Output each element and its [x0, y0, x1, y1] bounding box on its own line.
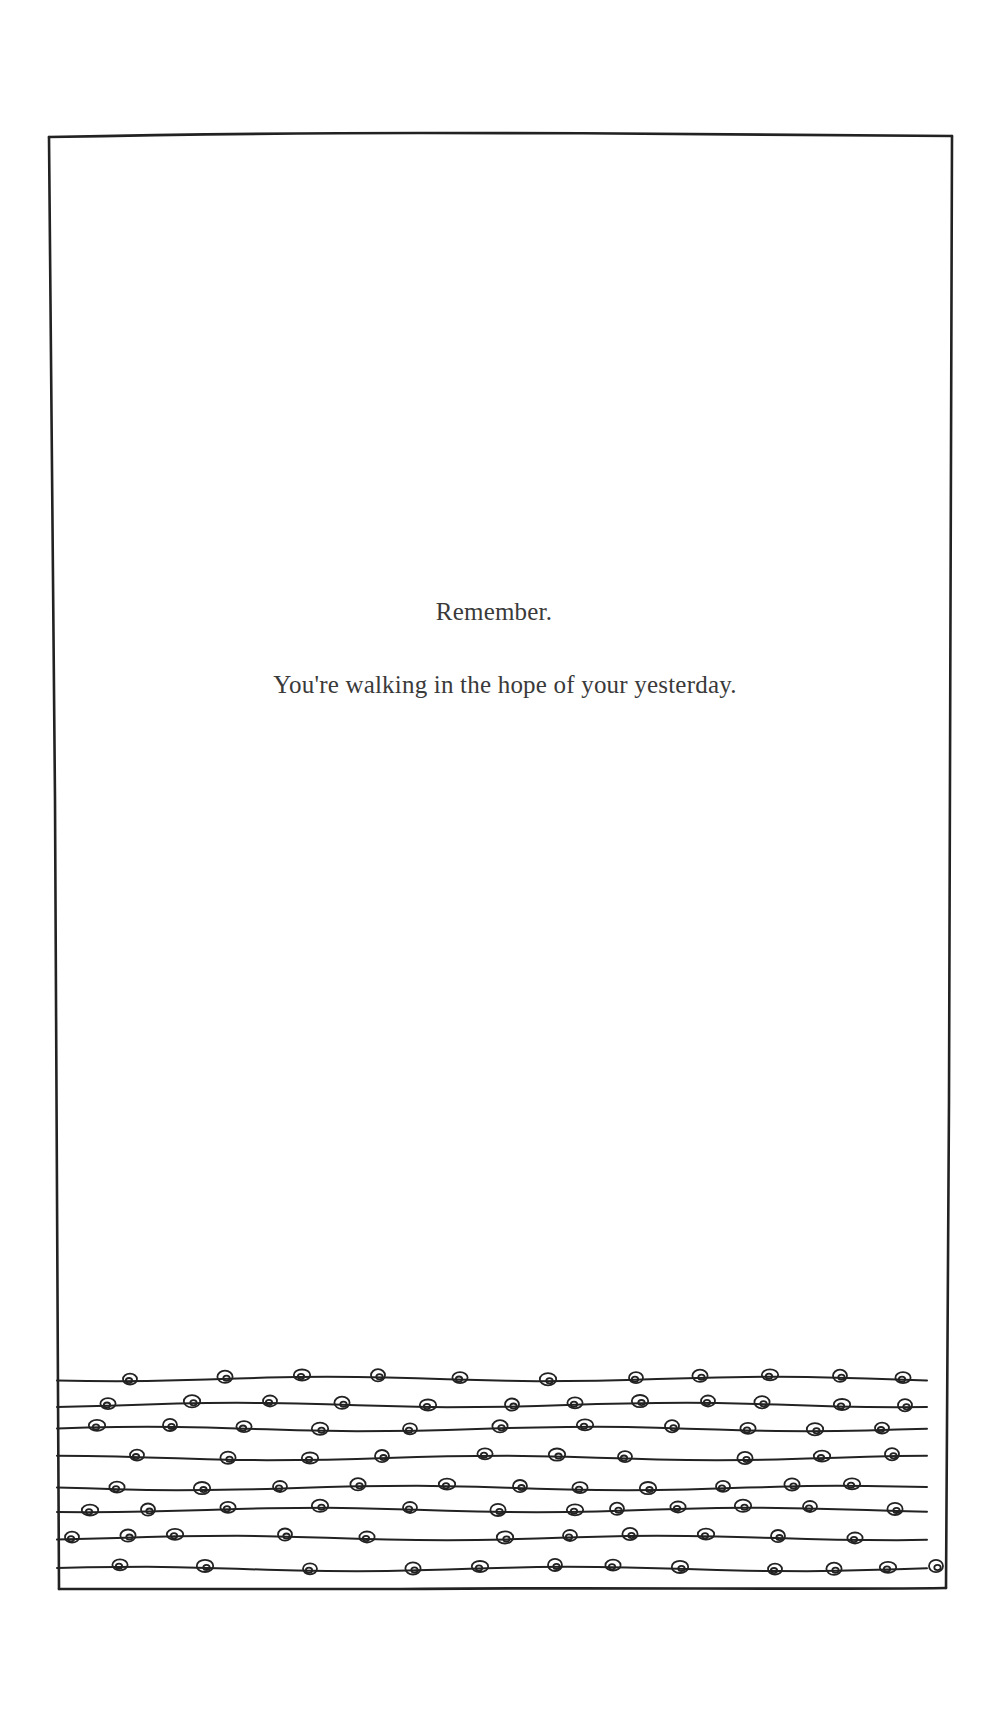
spiral-knots — [65, 1369, 943, 1575]
poem-line-remember: Remember. — [0, 598, 988, 626]
strand-line — [57, 1377, 927, 1381]
hand-drawn-illustration — [0, 0, 988, 1726]
poem-line-hope: You're walking in the hope of your yeste… — [0, 671, 988, 699]
strand-line — [57, 1567, 927, 1571]
strand-line — [57, 1536, 927, 1540]
strand-line — [57, 1508, 927, 1512]
spiral-knot-core — [934, 1565, 940, 1570]
frame-border — [49, 133, 952, 1590]
book-page: Remember. You're walking in the hope of … — [0, 0, 988, 1726]
page-edge-bleed — [0, 1714, 988, 1726]
